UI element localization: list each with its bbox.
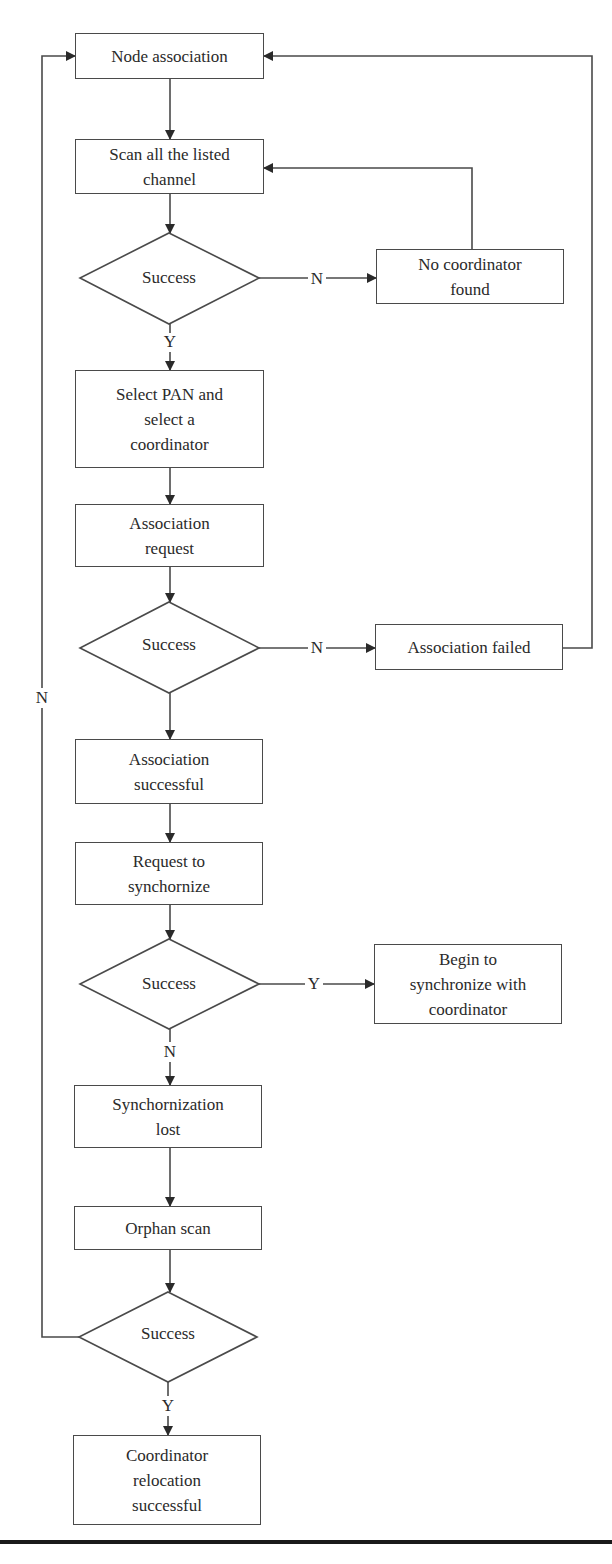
select-pan-label: Select PAN and select a coordinator [116, 382, 223, 457]
decision-sync-label: Success [142, 974, 196, 994]
scan-channels-box: Scan all the listed channel [75, 139, 264, 194]
no-coordinator-label: No coordinator found [418, 252, 521, 302]
decision-orphan-label: Success [141, 1324, 195, 1344]
association-successful-box: Association successful [75, 739, 263, 804]
relocation-successful-label: Coordinator relocation successful [126, 1443, 208, 1518]
begin-sync-box: Begin to synchronize with coordinator [374, 944, 562, 1024]
edge-label-sync-yes: Y [306, 975, 322, 993]
edge-label-association-no: N [309, 639, 325, 657]
sync-lost-box: Synchornization lost [74, 1085, 262, 1148]
edge-label-scan-yes: Y [162, 333, 178, 351]
decision-scan-label: Success [142, 268, 196, 288]
decision-association-label: Success [142, 635, 196, 655]
orphan-scan-label: Orphan scan [125, 1216, 210, 1241]
edge-label-orphan-yes: Y [160, 1397, 176, 1415]
sync-lost-label: Synchornization lost [112, 1092, 223, 1142]
begin-sync-label: Begin to synchronize with coordinator [410, 947, 527, 1022]
node-association-box: Node association [75, 33, 264, 79]
edge-label-sync-no: N [162, 1043, 178, 1061]
association-request-box: Association request [75, 504, 264, 567]
request-sync-box: Request to synchornize [75, 842, 263, 905]
relocation-successful-box: Coordinator relocation successful [73, 1435, 261, 1525]
node-association-label: Node association [111, 44, 228, 69]
edge-label-orphan-no: N [34, 689, 50, 707]
figure-caption-clipped [0, 1552, 612, 1564]
scan-channels-label: Scan all the listed channel [109, 142, 229, 192]
no-coordinator-box: No coordinator found [376, 249, 564, 304]
association-successful-label: Association successful [129, 747, 209, 797]
association-failed-label: Association failed [407, 635, 530, 660]
figure-separator-rule [0, 1540, 612, 1544]
select-pan-box: Select PAN and select a coordinator [75, 370, 264, 468]
edge-label-scan-no: N [309, 270, 325, 288]
association-failed-box: Association failed [375, 624, 563, 670]
orphan-scan-box: Orphan scan [74, 1206, 262, 1250]
association-request-label: Association request [129, 511, 209, 561]
request-sync-label: Request to synchornize [128, 849, 210, 899]
